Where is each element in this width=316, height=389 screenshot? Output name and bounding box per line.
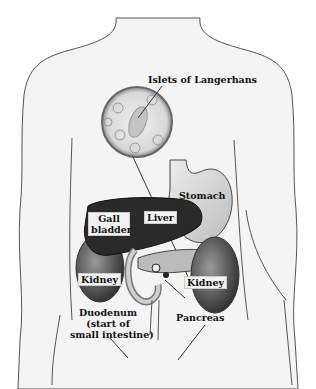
anatomy-diagram: Islets of Langerhans Stomach Liver Gall … (0, 0, 316, 389)
label-kidney-left: Kidney (78, 273, 121, 286)
body-illustration (0, 0, 316, 389)
label-duodenum-line1: Duodenum (79, 307, 137, 318)
label-pancreas: Pancreas (176, 312, 224, 323)
label-duodenum: Duodenum (start of small intestine) (70, 307, 146, 340)
kidney-right-shape (191, 237, 239, 313)
label-gall-bladder-line1: Gall (98, 213, 120, 224)
label-gall-bladder: Gall bladder (88, 212, 130, 236)
label-duodenum-line3: small intestine) (70, 329, 154, 340)
label-stomach: Stomach (179, 190, 225, 201)
label-duodenum-line2: (start of (86, 318, 130, 329)
label-kidney-right: Kidney (184, 276, 227, 289)
label-islets-of-langerhans: Islets of Langerhans (148, 74, 257, 85)
label-liver: Liver (144, 211, 177, 224)
label-gall-bladder-line2: bladder (91, 224, 132, 235)
